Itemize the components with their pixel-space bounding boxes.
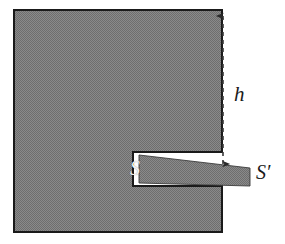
figure-container: h S S′: [0, 0, 285, 244]
wedge-shape: [139, 155, 250, 186]
label-s: S: [130, 158, 140, 178]
label-s-prime: S′: [256, 162, 270, 182]
label-h: h: [234, 84, 245, 105]
geometry-diagram-canvas: [0, 0, 285, 244]
block-shape: [14, 10, 222, 232]
